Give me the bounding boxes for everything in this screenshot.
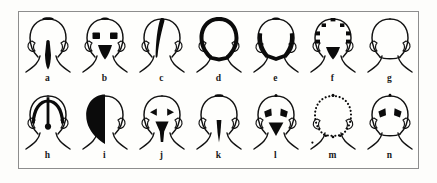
panel-label-f: f bbox=[331, 74, 334, 84]
panel-label-j: j bbox=[160, 151, 163, 161]
panel-label-n: n bbox=[387, 151, 392, 161]
head-diagram-g bbox=[362, 14, 418, 76]
panel-l: l bbox=[247, 90, 304, 169]
panel-k: k bbox=[190, 90, 247, 169]
figure-root: a b bbox=[0, 0, 437, 183]
panel-i: i bbox=[76, 90, 133, 169]
panel-label-h: h bbox=[45, 151, 50, 161]
panel-row-1: a b bbox=[19, 12, 418, 90]
head-diagram-f bbox=[305, 14, 361, 76]
panel-label-c: c bbox=[159, 74, 163, 84]
panel-e: e bbox=[247, 12, 304, 92]
head-diagram-j bbox=[134, 91, 190, 153]
panel-h: h bbox=[19, 90, 76, 169]
panel-c: c bbox=[133, 12, 190, 92]
head-diagram-l bbox=[248, 91, 304, 153]
panel-label-b: b bbox=[102, 74, 107, 84]
panel-d: d bbox=[190, 12, 247, 92]
panel-a: a bbox=[19, 12, 76, 92]
panel-label-m: m bbox=[328, 151, 336, 161]
panel-f: f bbox=[304, 12, 361, 92]
figure-frame: a b bbox=[18, 11, 419, 169]
panel-label-g: g bbox=[387, 74, 392, 84]
head-diagram-d bbox=[191, 14, 247, 76]
head-diagram-h bbox=[20, 91, 76, 153]
panel-label-a: a bbox=[45, 74, 50, 84]
head-diagram-c bbox=[134, 14, 190, 76]
panel-label-k: k bbox=[216, 151, 221, 161]
head-diagram-b bbox=[77, 14, 133, 76]
panel-m: m bbox=[304, 90, 361, 169]
panel-n: n bbox=[361, 90, 418, 169]
panel-label-e: e bbox=[273, 74, 277, 84]
head-diagram-a bbox=[20, 14, 76, 76]
panel-b: b bbox=[76, 12, 133, 92]
panel-grid: a b bbox=[19, 12, 418, 168]
panel-g: g bbox=[361, 12, 418, 92]
head-diagram-m bbox=[305, 91, 361, 153]
head-diagram-e bbox=[248, 14, 304, 76]
head-diagram-n bbox=[362, 91, 418, 153]
head-diagram-k bbox=[191, 91, 247, 153]
panel-label-i: i bbox=[103, 151, 106, 161]
panel-label-d: d bbox=[216, 74, 221, 84]
panel-j: j bbox=[133, 90, 190, 169]
panel-row-2: h i bbox=[19, 90, 418, 168]
head-diagram-i bbox=[77, 91, 133, 153]
panel-label-l: l bbox=[274, 151, 277, 161]
